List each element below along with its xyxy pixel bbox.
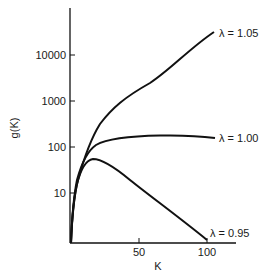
y-ticks: 10000 1000 100 10 (35, 49, 75, 199)
y-axis-label: g(K) (8, 118, 20, 139)
x-axis-label: K (154, 260, 162, 272)
series-line-lambda-0-95 (71, 159, 207, 243)
x-ticks: 50 100 (133, 238, 216, 258)
series-label-lambda-0-95: λ = 0.95 (210, 227, 249, 239)
y-tick-label: 1000 (42, 95, 66, 107)
x-tick-label: 100 (198, 246, 216, 258)
y-tick-label: 10000 (35, 49, 66, 61)
series-label-lambda-1-00: λ = 1.00 (219, 132, 258, 144)
series-line-lambda-1-05 (71, 32, 214, 243)
chart: 10000 1000 100 10 50 100 K g(K) λ = 1.05… (0, 0, 265, 279)
x-tick-label: 50 (133, 246, 145, 258)
y-tick-label: 100 (48, 141, 66, 153)
y-tick-label: 10 (54, 187, 66, 199)
series-label-lambda-1-05: λ = 1.05 (219, 27, 258, 39)
